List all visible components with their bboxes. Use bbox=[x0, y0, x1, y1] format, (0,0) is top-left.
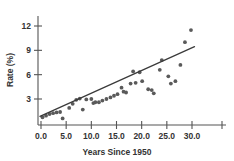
data-point bbox=[61, 117, 65, 121]
data-point bbox=[146, 87, 150, 91]
x-tick-label: 25.0 bbox=[159, 131, 176, 141]
data-point bbox=[183, 40, 187, 44]
data-point bbox=[116, 92, 120, 96]
trend-line bbox=[40, 47, 195, 117]
data-point bbox=[84, 98, 88, 102]
data-point bbox=[58, 110, 62, 114]
scatter-plot-figure: 36912 0.05.010.015.020.025.030.0 Years S… bbox=[0, 0, 234, 161]
data-point bbox=[152, 91, 156, 95]
data-point bbox=[89, 97, 93, 101]
data-point bbox=[140, 79, 144, 83]
data-point bbox=[166, 74, 170, 78]
data-point bbox=[129, 82, 133, 86]
x-axis: 0.05.010.015.020.025.030.0 bbox=[35, 121, 226, 141]
y-tick-label: 9 bbox=[26, 45, 31, 55]
x-axis-title: Years Since 1950 bbox=[82, 147, 151, 157]
y-axis-title: Rate (%) bbox=[5, 53, 15, 87]
data-point bbox=[109, 95, 113, 99]
data-point bbox=[81, 108, 85, 112]
y-tick-label: 3 bbox=[26, 94, 31, 104]
data-point bbox=[173, 79, 177, 83]
x-tick-label: 5.0 bbox=[60, 131, 72, 141]
y-axis-tick-labels: 36912 bbox=[22, 21, 32, 104]
data-point bbox=[105, 97, 109, 101]
x-axis-tick-labels: 0.05.010.015.020.025.030.0 bbox=[35, 131, 200, 141]
data-point bbox=[93, 100, 97, 104]
data-point bbox=[124, 91, 128, 95]
x-tick-label: 20.0 bbox=[133, 131, 150, 141]
data-point bbox=[179, 63, 183, 67]
data-point bbox=[55, 110, 59, 114]
x-tick-label: 30.0 bbox=[184, 131, 201, 141]
data-point bbox=[134, 81, 138, 85]
data-point bbox=[120, 86, 124, 90]
data-point bbox=[67, 106, 71, 110]
y-tick-label: 6 bbox=[26, 70, 31, 80]
data-point bbox=[189, 28, 193, 32]
y-tick-label: 12 bbox=[22, 21, 32, 31]
x-tick-label: 15.0 bbox=[108, 131, 125, 141]
data-point bbox=[97, 100, 101, 104]
data-point bbox=[158, 68, 162, 72]
data-point bbox=[169, 82, 173, 86]
data-point bbox=[131, 70, 135, 74]
data-point bbox=[51, 111, 55, 115]
data-points bbox=[41, 28, 193, 120]
y-axis: 36912 bbox=[22, 16, 42, 125]
data-point bbox=[101, 99, 105, 103]
data-point bbox=[112, 94, 116, 98]
plot-canvas: 36912 0.05.010.015.020.025.030.0 Years S… bbox=[0, 0, 234, 161]
x-tick-label: 10.0 bbox=[83, 131, 100, 141]
x-tick-label: 0.0 bbox=[35, 131, 47, 141]
data-point bbox=[150, 88, 154, 92]
